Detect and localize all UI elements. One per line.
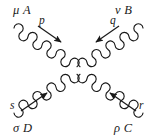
leg-label-sigma-d: σ D: [13, 122, 32, 135]
momentum-arrow-q: [96, 26, 119, 42]
momentum-label-q: q: [110, 15, 116, 27]
leg-label-mu-a: μ A: [13, 4, 31, 17]
diagram-canvas: [0, 0, 157, 140]
gluon-leg-lower-right: [78, 74, 143, 117]
gluon-leg-upper-right: [78, 24, 143, 67]
leg-label-nu-b: ν B: [115, 4, 132, 17]
momentum-label-s: s: [10, 100, 15, 112]
gluon-leg-upper-left: [14, 24, 79, 67]
momentum-label-p: p: [39, 15, 45, 27]
leg-label-rho-c: ρ C: [114, 122, 132, 135]
momentum-arrow-p: [38, 26, 61, 42]
momentum-label-r: r: [139, 100, 144, 112]
gluon-leg-lower-left: [14, 74, 79, 117]
feynman-diagram-figure: μ A ν B σ D ρ C p q s r: [0, 0, 157, 140]
